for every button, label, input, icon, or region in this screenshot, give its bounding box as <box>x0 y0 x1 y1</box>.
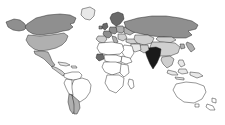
country-tasmania <box>195 104 199 107</box>
world-map-figure <box>0 0 225 125</box>
country-north-africa <box>97 42 124 55</box>
world-choropleth-map <box>0 0 225 125</box>
country-korea <box>180 44 185 49</box>
country-caribbean-hispaniola <box>71 66 77 68</box>
country-new-zealand-north <box>212 98 216 103</box>
country-ireland <box>99 26 102 29</box>
